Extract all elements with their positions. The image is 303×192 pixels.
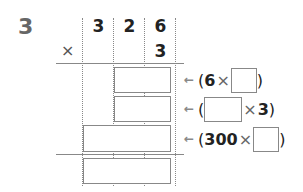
product-line <box>56 63 184 64</box>
expression-row-1: ← ( 6 × ) <box>184 67 263 93</box>
expression-row-3: ← ( 300 × ) <box>184 126 285 152</box>
partial-product-2-input[interactable] <box>114 96 171 122</box>
expr3-blank-input[interactable] <box>253 127 279 152</box>
expr1-blank-input[interactable] <box>231 68 257 93</box>
partial-product-3-input[interactable] <box>83 125 171 152</box>
multiply-sign: × <box>61 41 74 60</box>
expr2-blank-input[interactable] <box>204 97 242 122</box>
ones-digit: 6 <box>145 16 176 36</box>
question-number: 3 <box>18 14 33 39</box>
final-product-input[interactable] <box>83 158 171 184</box>
multiplier-digit: 3 <box>145 41 176 61</box>
sum-line <box>56 154 184 155</box>
expression-row-2: ← ( × 3 ) <box>184 96 275 122</box>
left-arrow-icon: ← <box>184 132 194 146</box>
left-arrow-icon: ← <box>184 102 194 116</box>
left-arrow-icon: ← <box>184 73 194 87</box>
tens-digit: 2 <box>114 16 145 36</box>
partial-product-1-input[interactable] <box>114 67 171 93</box>
hundreds-digit: 3 <box>83 16 114 36</box>
